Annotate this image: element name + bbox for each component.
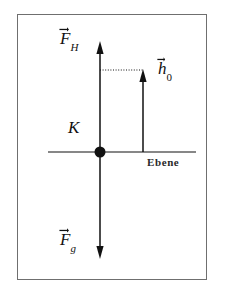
height-vector-arrowhead bbox=[139, 69, 146, 82]
force-down-symbol-wrap: F bbox=[60, 231, 70, 248]
body-point-label: K bbox=[68, 119, 79, 136]
height-label: h 0 bbox=[158, 60, 172, 80]
force-up-arrowhead bbox=[96, 41, 103, 54]
diagram-canvas bbox=[0, 0, 226, 294]
force-down-label: F g bbox=[60, 231, 76, 251]
force-down-arrowhead bbox=[96, 246, 103, 259]
force-up-symbol-wrap: F bbox=[60, 30, 70, 47]
plane-label: Ebene bbox=[147, 157, 179, 168]
force-up-subscript: H bbox=[70, 41, 78, 53]
force-down-symbol: F bbox=[60, 230, 70, 249]
height-symbol-wrap: h bbox=[158, 60, 167, 77]
body-point-dot bbox=[95, 147, 106, 158]
force-down-subscript: g bbox=[70, 242, 76, 254]
force-up-label: F H bbox=[60, 30, 78, 50]
height-subscript: 0 bbox=[167, 71, 173, 83]
force-up-symbol: F bbox=[60, 29, 70, 48]
physics-diagram: F H h 0 K F g Ebene bbox=[0, 0, 226, 294]
height-symbol: h bbox=[158, 59, 167, 78]
